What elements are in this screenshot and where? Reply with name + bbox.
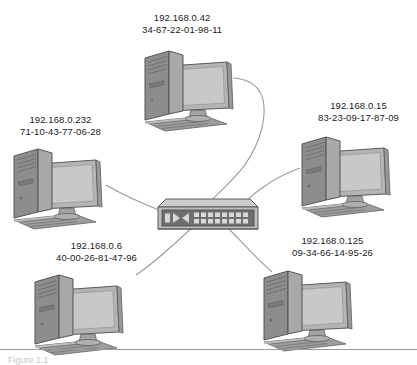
node-label-pc-right-lower: 192.168.0.125 09-34-66-14-95-26 xyxy=(292,235,373,259)
ip-address: 192.168.0.15 xyxy=(318,100,399,112)
node-label-pc-right-upper: 192.168.0.15 83-23-09-17-87-09 xyxy=(318,100,399,124)
computer-pc-right-upper[interactable] xyxy=(302,137,390,217)
computer-pc-left-lower[interactable] xyxy=(35,275,123,355)
footer-divider xyxy=(0,349,417,350)
node-label-pc-left-upper: 192.168.0.232 71-10-43-77-06-28 xyxy=(20,114,101,138)
ip-address: 192.168.0.232 xyxy=(20,114,101,126)
mac-address: 71-10-43-77-06-28 xyxy=(20,126,101,138)
node-label-pc-top: 192.168.0.42 34-67-22-01-98-11 xyxy=(142,12,222,36)
cable-pc-left-upper xyxy=(106,185,164,212)
cable-pc-left-lower xyxy=(136,228,192,275)
figure-caption: Figure 1.1 xyxy=(8,355,49,365)
computer-pc-right-lower[interactable] xyxy=(264,271,352,351)
cable-pc-right-lower xyxy=(228,228,272,272)
network-switch[interactable] xyxy=(158,199,258,229)
computer-pc-top[interactable] xyxy=(145,51,233,131)
ip-address: 192.168.0.42 xyxy=(142,12,222,24)
ip-address: 192.168.0.6 xyxy=(56,240,137,252)
mac-address: 34-67-22-01-98-11 xyxy=(142,24,222,36)
network-diagram-canvas xyxy=(0,0,417,365)
mac-address: 40-00-26-81-47-96 xyxy=(56,252,137,264)
computer-pc-left-upper[interactable] xyxy=(14,149,102,229)
mac-address: 83-23-09-17-87-09 xyxy=(318,112,399,124)
mac-address: 09-34-66-14-95-26 xyxy=(292,247,373,259)
node-label-pc-left-lower: 192.168.0.6 40-00-26-81-47-96 xyxy=(56,240,137,264)
ip-address: 192.168.0.125 xyxy=(292,235,373,247)
